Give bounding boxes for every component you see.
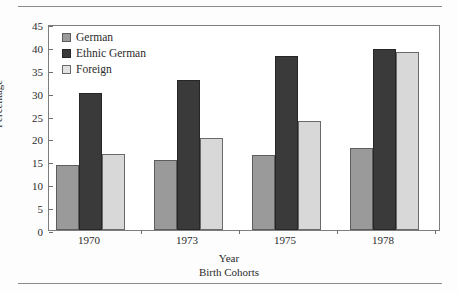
y-tick-label: 0 xyxy=(11,227,43,237)
bar-foreign-1978[interactable] xyxy=(396,52,419,230)
x-tick-mark xyxy=(435,230,436,234)
x-axis-label: Year xyxy=(0,252,458,264)
x-tick-mark xyxy=(337,230,338,234)
y-tick-label: 25 xyxy=(11,113,43,123)
y-tick-label: 20 xyxy=(11,135,43,145)
y-tick-mark xyxy=(49,232,53,233)
legend-item-foreign[interactable]: Foreign xyxy=(62,62,146,76)
legend-swatch-icon xyxy=(62,33,71,42)
y-tick-label: 40 xyxy=(11,44,43,54)
legend-label: Foreign xyxy=(76,63,112,75)
x-axis-label-secondary: Birth Cohorts xyxy=(0,266,458,278)
bottom-divider-rule xyxy=(18,283,442,284)
x-tick-label-1970: 1970 xyxy=(59,234,119,246)
legend-item-ethnic-german[interactable]: Ethnic German xyxy=(62,46,146,60)
y-axis-label: Percentage xyxy=(0,80,4,128)
y-tick-label: 15 xyxy=(11,158,43,168)
top-divider-rule xyxy=(18,6,442,7)
y-tick-label: 35 xyxy=(11,67,43,77)
x-tick-label-1978: 1978 xyxy=(353,234,413,246)
y-tick-label: 10 xyxy=(11,181,43,191)
chart-legend: GermanEthnic GermanForeign xyxy=(62,30,146,76)
y-tick-label: 45 xyxy=(11,21,43,31)
legend-item-german[interactable]: German xyxy=(62,30,146,44)
y-tick-label: 5 xyxy=(11,204,43,214)
legend-swatch-icon xyxy=(62,65,71,74)
bar-ethnic-german-1978[interactable] xyxy=(373,49,396,230)
legend-label: Ethnic German xyxy=(76,47,146,59)
x-tick-mark xyxy=(141,230,142,234)
x-tick-mark xyxy=(239,230,240,234)
y-tick-label: 30 xyxy=(11,90,43,100)
legend-swatch-icon xyxy=(62,49,71,58)
figure-container: Percentage 051015202530354045 1970197319… xyxy=(0,0,458,292)
x-tick-label-1973: 1973 xyxy=(157,234,217,246)
legend-label: German xyxy=(76,31,113,43)
bar-german-1978[interactable] xyxy=(350,148,373,230)
x-tick-label-1975: 1975 xyxy=(255,234,315,246)
